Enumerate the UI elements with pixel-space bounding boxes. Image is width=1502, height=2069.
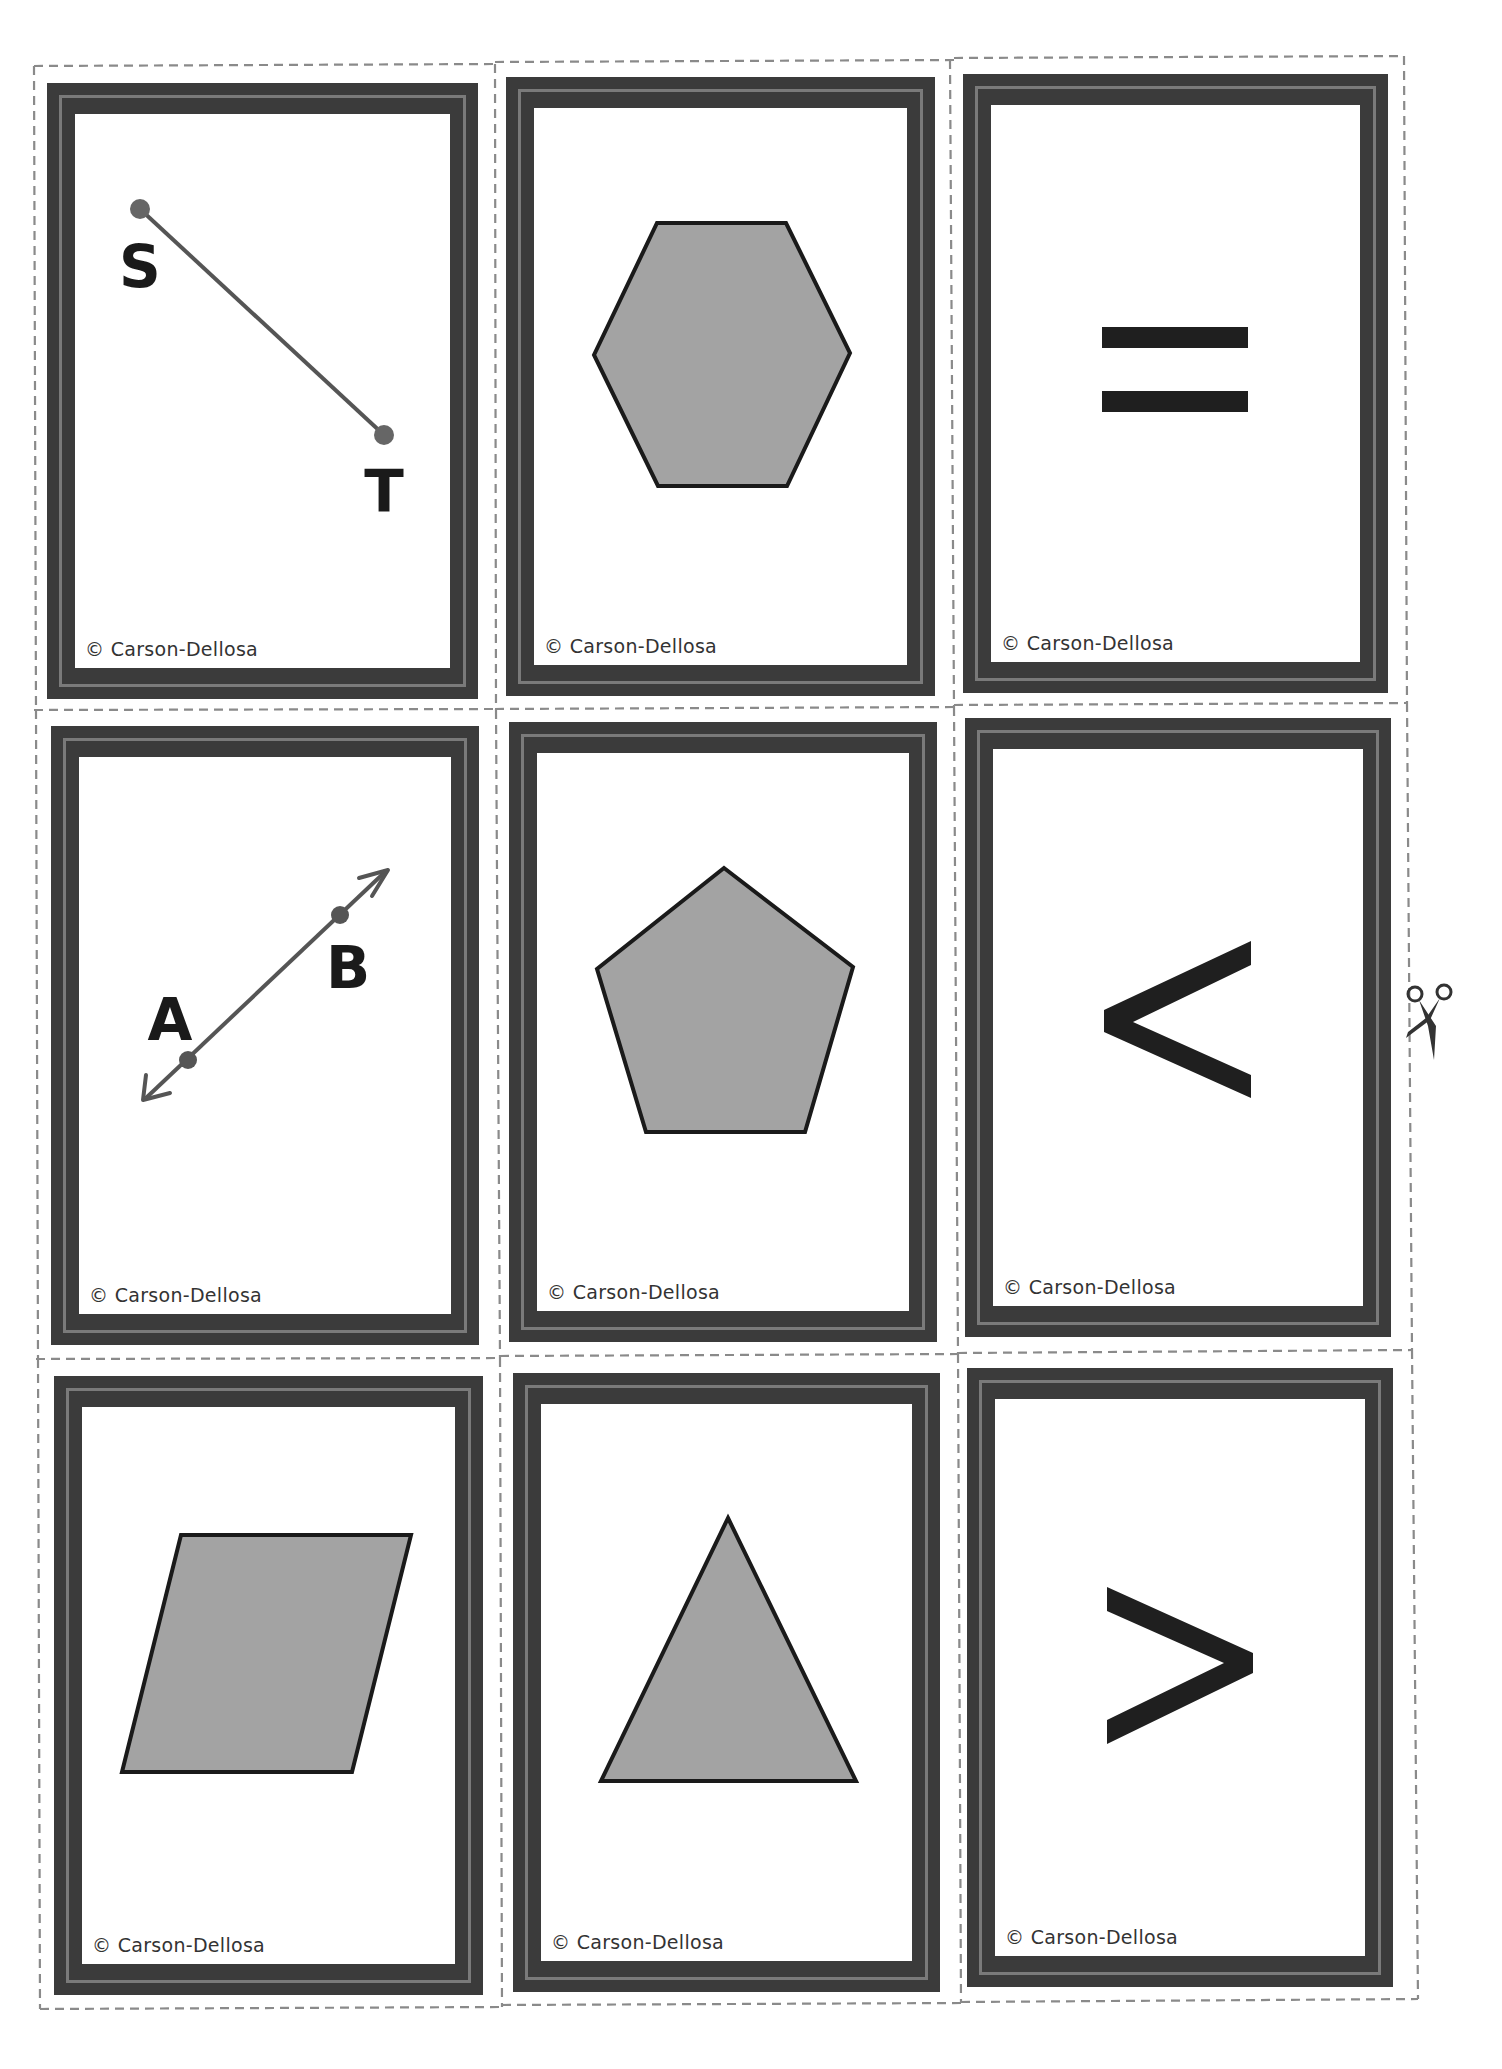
endpoint-s-dot: [130, 199, 150, 219]
label-b: B: [326, 934, 370, 1002]
card-artwork: S T A B: [0, 0, 1502, 2069]
scissors-icon: [1400, 980, 1456, 1064]
line-segment-st: S T: [119, 199, 404, 526]
less-than-sign: [1104, 941, 1251, 1098]
endpoint-t-dot: [374, 425, 394, 445]
hexagon-shape: [594, 223, 850, 486]
triangle-shape: [601, 1518, 856, 1781]
label-s: S: [119, 233, 161, 301]
point-b-dot: [331, 906, 349, 924]
label-a: A: [148, 986, 193, 1054]
equals-sign: [1102, 327, 1248, 412]
parallelogram-shape: [122, 1535, 411, 1772]
flash-card-sheet: © Carson-Dellosa © Carson-Dellosa © Cars…: [0, 0, 1502, 2069]
pentagon-shape: [597, 868, 853, 1132]
line-ab: A B: [143, 870, 388, 1100]
greater-than-sign: [1107, 1587, 1253, 1744]
label-t: T: [364, 458, 404, 526]
